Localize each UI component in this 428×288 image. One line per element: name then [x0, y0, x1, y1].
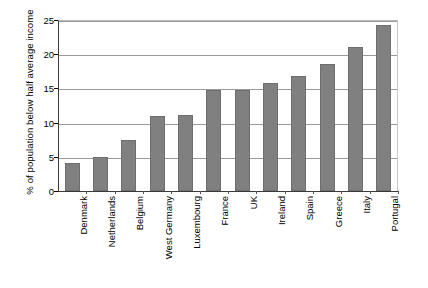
- x-axis-label: Spain: [303, 196, 317, 284]
- x-axis-label: UK: [247, 196, 261, 284]
- x-axis-label: Luxembourg: [190, 196, 204, 284]
- x-axis-tick-marks: [58, 191, 398, 195]
- x-tick-mark: [313, 191, 314, 194]
- x-tick-mark: [285, 191, 286, 194]
- y-axis-tick-labels: 0510152025: [32, 0, 58, 288]
- x-axis-label: West Germany: [162, 196, 176, 284]
- bar: [93, 157, 108, 191]
- x-tick-mark: [143, 191, 144, 194]
- bar: [65, 163, 80, 191]
- bar: [206, 90, 221, 191]
- bar: [320, 64, 335, 191]
- bar-chart: % of population below half average incom…: [0, 0, 428, 288]
- x-tick-mark: [256, 191, 257, 194]
- x-axis-label: Denmark: [77, 196, 91, 284]
- x-axis-label: Portugal: [388, 196, 402, 284]
- x-tick-mark: [115, 191, 116, 194]
- bar: [178, 115, 193, 191]
- y-tick-label: 20: [43, 49, 54, 60]
- x-tick-mark: [86, 191, 87, 194]
- bar: [121, 140, 136, 191]
- y-tick-label: 25: [43, 15, 54, 26]
- x-axis-label: Ireland: [275, 196, 289, 284]
- bar: [348, 47, 363, 191]
- x-axis-label: Belgium: [133, 196, 147, 284]
- bar: [263, 83, 278, 191]
- bar: [150, 116, 165, 191]
- bar: [235, 90, 250, 191]
- x-tick-mark: [228, 191, 229, 194]
- bars-layer: [58, 20, 398, 191]
- x-tick-mark: [171, 191, 172, 194]
- x-tick-mark: [341, 191, 342, 194]
- bar: [376, 25, 391, 191]
- bar: [291, 76, 306, 191]
- x-tick-mark: [200, 191, 201, 194]
- x-axis-label: Netherlands: [105, 196, 119, 284]
- y-tick-label: 10: [43, 117, 54, 128]
- y-tick-label: 15: [43, 83, 54, 94]
- x-axis-category-labels: DenmarkNetherlandsBelgiumWest GermanyLux…: [58, 196, 398, 288]
- x-axis-label: Greece: [332, 196, 346, 284]
- x-tick-mark: [398, 191, 399, 194]
- x-axis-label: France: [218, 196, 232, 284]
- x-axis-label: Italy: [360, 196, 374, 284]
- x-tick-mark: [370, 191, 371, 194]
